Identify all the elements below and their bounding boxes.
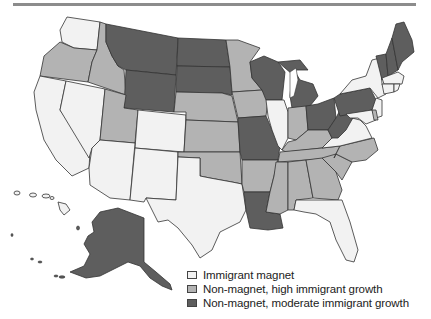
state-ri [394, 84, 400, 92]
legend-label: Immigrant magnet [203, 269, 294, 281]
state-nd [177, 38, 230, 67]
legend-item-immigrant-magnet: Immigrant magnet [187, 268, 409, 282]
aleutian-islands [11, 226, 80, 278]
swatch-dark-icon [187, 299, 197, 307]
legend: Immigrant magnet Non-magnet, high immigr… [187, 268, 409, 310]
state-hi [14, 191, 70, 215]
swatch-mid-icon [187, 285, 197, 293]
state-ak [70, 208, 172, 290]
state-fl [294, 200, 358, 262]
state-ks [184, 120, 240, 152]
state-nm [130, 148, 178, 202]
state-ia [232, 90, 268, 118]
legend-item-moderate-growth: Non-magnet, moderate immigrant growth [187, 296, 409, 310]
state-co [135, 110, 186, 152]
state-sd [176, 66, 232, 95]
state-wy [124, 70, 176, 112]
state-az [89, 140, 135, 200]
legend-label: Non-magnet, moderate immigrant growth [203, 297, 409, 309]
swatch-light-icon [187, 271, 197, 279]
legend-label: Non-magnet, high immigrant growth [203, 283, 383, 295]
state-ct [382, 84, 394, 94]
legend-item-high-growth: Non-magnet, high immigrant growth [187, 282, 409, 296]
